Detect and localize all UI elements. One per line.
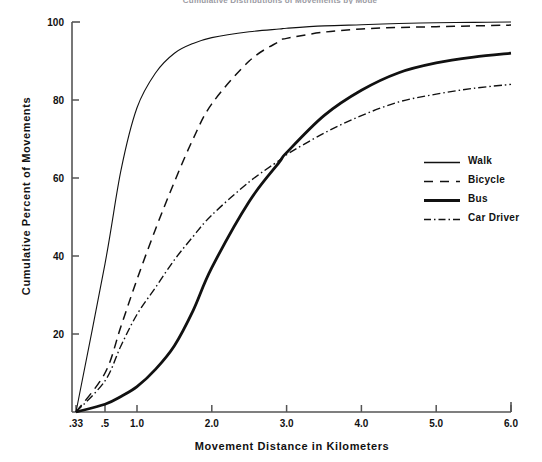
x-tick-label: 4.0 [354,418,368,429]
legend-item-walk: Walk [424,154,536,173]
x-axis-title: Movement Distance in Kilometers [72,440,512,452]
cumulative-distribution-chart: Cumulative Distributions of Movements by… [0,0,542,462]
chart-legend: Walk Bicycle Bus Car Driver [424,154,536,230]
legend-label-walk: Walk [468,154,492,168]
legend-label-bus: Bus [468,192,488,206]
legend-item-car-driver: Car Driver [424,211,536,230]
x-tick-label: 6.0 [504,418,518,429]
clipped-figure-header: Cumulative Distributions of Movements by… [120,0,440,4]
legend-swatch-walk [424,160,460,165]
y-tick-label: 100 [20,17,64,28]
x-tick-label: 2.0 [205,418,219,429]
legend-item-bus: Bus [424,192,536,211]
legend-swatch-bicycle [424,179,460,184]
x-tick-label: 3.0 [280,418,294,429]
plot-area [0,0,542,462]
x-tick-label: 1.0 [130,418,144,429]
y-tick-label: 40 [20,251,64,262]
legend-item-bicycle: Bicycle [424,173,536,192]
y-tick-label: 60 [20,173,64,184]
y-tick-label: 80 [20,95,64,106]
legend-label-car-driver: Car Driver [468,211,519,225]
x-tick-label: 5.0 [429,418,443,429]
x-tick-label: .33 [69,418,83,429]
legend-swatch-car-driver [424,217,460,222]
legend-label-bicycle: Bicycle [468,173,505,187]
x-tick-label: .5 [101,418,109,429]
curve-car-driver [76,84,511,412]
legend-swatch-bus [424,198,460,203]
curve-bus [76,53,511,412]
y-tick-label: 20 [20,329,64,340]
